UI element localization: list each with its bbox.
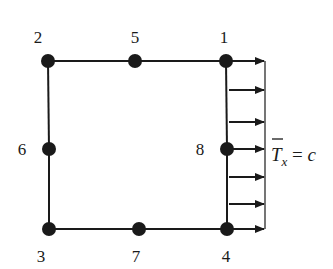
edge-6-2 [48, 61, 49, 149]
node-5 [128, 54, 142, 68]
node-4 [220, 222, 234, 236]
node-label-1: 1 [220, 28, 229, 47]
edge-1-8 [226, 61, 227, 149]
node-8 [220, 142, 234, 156]
node-1 [219, 54, 233, 68]
node-6 [42, 142, 56, 156]
node-label-8: 8 [196, 140, 205, 159]
node-label-4: 4 [222, 247, 231, 266]
node-2 [41, 54, 55, 68]
element-diagram: 12345678 Tx = c [0, 0, 333, 269]
node-7 [132, 222, 146, 236]
node-label-7: 7 [132, 247, 141, 266]
element-nodes [41, 54, 234, 236]
node-label-3: 3 [37, 247, 46, 266]
node-label-6: 6 [18, 140, 27, 159]
node-label-5: 5 [131, 28, 140, 47]
traction-label: Tx = c [271, 144, 317, 169]
traction-value: c [308, 144, 317, 165]
traction-equals: = [287, 144, 307, 165]
node-3 [42, 222, 56, 236]
traction-load [229, 61, 265, 229]
node-label-2: 2 [34, 28, 43, 47]
